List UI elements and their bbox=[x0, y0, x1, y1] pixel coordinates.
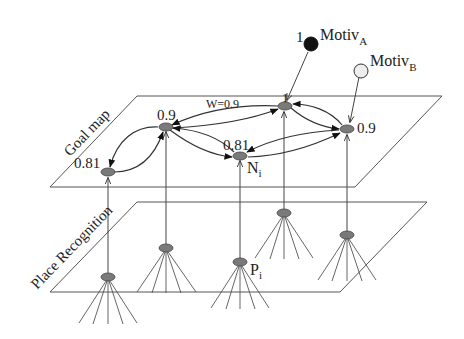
input-fan-p2 bbox=[137, 249, 196, 293]
goal-node-g3[interactable] bbox=[233, 152, 247, 160]
edge-weight-label: W=0.9 bbox=[206, 97, 239, 111]
goal-value-g2: 0.9 bbox=[157, 107, 176, 123]
goal-node-g2[interactable] bbox=[159, 123, 173, 131]
place-node-p1[interactable] bbox=[101, 273, 115, 281]
place-node-p3[interactable] bbox=[233, 258, 247, 266]
goal-value-g4: 1 bbox=[282, 90, 289, 105]
goal-node-g1[interactable] bbox=[101, 168, 115, 176]
place-nodes bbox=[101, 209, 354, 281]
place-node-p5[interactable] bbox=[340, 231, 354, 239]
motiv-b-label: MotivB bbox=[370, 52, 416, 73]
motiv-a-label: MotivA bbox=[320, 26, 367, 47]
motiv-b-unit[interactable] bbox=[354, 64, 368, 78]
place-node-name-p3: Pi bbox=[250, 261, 262, 281]
goal-value-g1: 0.81 bbox=[74, 155, 100, 171]
place-node-p4[interactable] bbox=[277, 209, 291, 217]
goal-map-layer-label: Goal map bbox=[61, 106, 113, 159]
motivation-connections bbox=[287, 52, 359, 122]
input-fan-p5 bbox=[318, 236, 376, 281]
input-fans bbox=[79, 214, 376, 324]
motiv-a-activation: 1 bbox=[296, 29, 304, 45]
goal-node-name-g3: Ni bbox=[247, 159, 262, 179]
input-fan-p1 bbox=[79, 278, 137, 324]
goal-value-g5: 0.9 bbox=[357, 120, 376, 136]
motiv-a-unit[interactable] bbox=[304, 37, 318, 51]
diagram-canvas: 1 MotivA MotivB 0.81 0.9 0.81 Ni 1 0.9 W… bbox=[0, 0, 464, 339]
goal-value-g3: 0.81 bbox=[223, 137, 249, 153]
place-node-p2[interactable] bbox=[159, 244, 173, 252]
goal-node-g5[interactable] bbox=[340, 125, 354, 133]
input-fan-p4 bbox=[255, 214, 313, 259]
